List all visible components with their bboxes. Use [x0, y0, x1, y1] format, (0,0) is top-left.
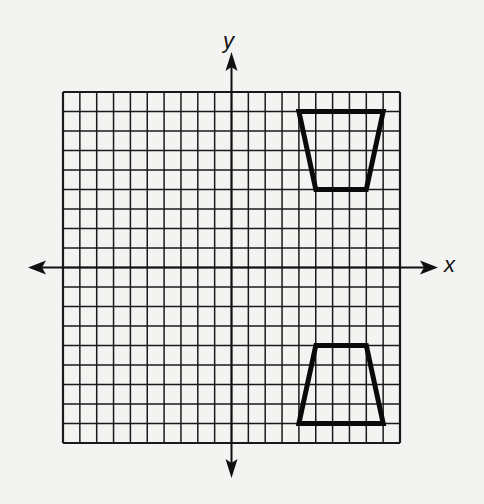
y-axis-label: y	[223, 30, 234, 52]
axes	[28, 52, 438, 478]
x-axis-label: x	[444, 254, 455, 276]
diagram-stage: y x	[0, 0, 484, 504]
coordinate-grid	[0, 0, 484, 504]
